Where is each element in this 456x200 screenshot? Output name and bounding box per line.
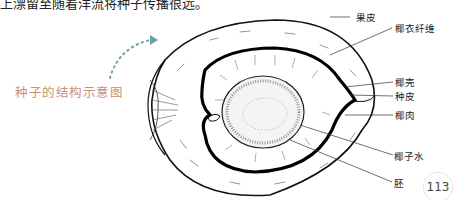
diagram-caption: 种子的结构示意图 — [15, 82, 123, 101]
page-number-badge: 113 — [423, 172, 453, 200]
label-embryo: 胚 — [394, 176, 404, 190]
label-coconut-water: 椰子水 — [394, 149, 424, 163]
dotted-arrow-icon — [110, 40, 150, 78]
label-flesh: 椰肉 — [395, 108, 415, 122]
page-number: 113 — [427, 180, 450, 194]
label-shell: 椰壳 — [395, 75, 415, 89]
label-coir-fiber: 椰衣纤维 — [395, 21, 435, 35]
label-seed-coat: 种皮 — [395, 89, 415, 103]
label-pericarp: 果皮 — [356, 10, 376, 24]
arrowhead-icon — [150, 35, 158, 45]
